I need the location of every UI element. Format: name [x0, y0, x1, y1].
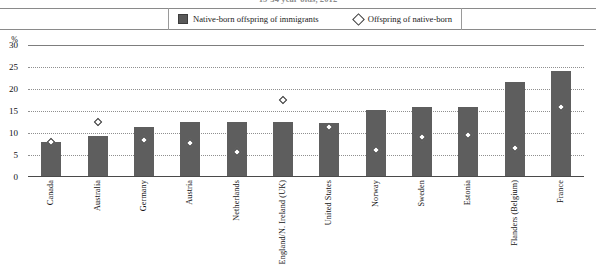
x-label-sweden: Sweden	[418, 180, 426, 207]
y-tick-label-5: 5	[14, 151, 19, 160]
y-tick-label-15: 15	[9, 107, 18, 116]
legend-label-diamond: Offspring of native-born	[368, 15, 452, 24]
bar-group	[505, 45, 525, 177]
bar-group	[227, 45, 247, 177]
x-label-flanders-belgium: Flanders (Belgium)	[511, 180, 519, 246]
bar-germany	[134, 127, 154, 177]
legend-label-bar: Native-born offspring of immigrants	[193, 15, 319, 24]
x-label-estonia: Estonia	[464, 180, 472, 205]
x-label-united-states: United States	[325, 180, 333, 225]
x-label-canada: Canada	[47, 180, 55, 205]
chart-title: 15-34 year-olds, 2012	[0, 0, 596, 4]
x-label-france: France	[557, 180, 565, 203]
y-tick-label-25: 25	[9, 63, 18, 72]
bar-canada	[41, 142, 61, 177]
legend-item-diamond: Offspring of native-born	[354, 15, 452, 24]
chart-figure: 15-34 year-olds, 2012 Native-born offspr…	[0, 0, 596, 271]
bar-flanders-belgium	[505, 82, 525, 177]
bar-group	[273, 45, 293, 177]
bar-group	[88, 45, 108, 177]
legend-item-bar: Native-born offspring of immigrants	[178, 14, 319, 24]
bar-group	[41, 45, 61, 177]
y-tick-label-0: 0	[14, 173, 19, 182]
legend-square-icon	[178, 14, 188, 24]
bar-england-n-ireland-uk	[273, 122, 293, 177]
bar-group	[180, 45, 200, 177]
bar-france	[551, 71, 571, 177]
y-axis: % 051015202530	[0, 30, 28, 182]
bar-group	[458, 45, 478, 177]
y-tick-label-10: 10	[9, 129, 18, 138]
legend-diamond-icon	[352, 13, 365, 26]
bar-sweden	[412, 107, 432, 177]
bar-group	[319, 45, 339, 177]
bar-norway	[366, 110, 386, 177]
chart-legend: Native-born offspring of immigrants Offs…	[168, 8, 462, 30]
x-label-england-n-ireland-uk: England/N. Ireland (UK)	[279, 180, 287, 264]
bar-group	[412, 45, 432, 177]
x-axis-labels: CanadaAustraliaGermanyAustriaNetherlands…	[28, 180, 584, 268]
plot-area	[28, 45, 584, 177]
x-label-germany: Germany	[140, 180, 148, 211]
y-tick-label-30: 30	[9, 41, 18, 50]
x-label-norway: Norway	[372, 180, 380, 207]
bars-layer	[28, 45, 584, 177]
bar-group	[366, 45, 386, 177]
x-axis-line	[28, 176, 584, 177]
bar-estonia	[458, 107, 478, 177]
x-label-netherlands: Netherlands	[233, 180, 241, 221]
y-tick-label-20: 20	[9, 85, 18, 94]
x-label-australia: Australia	[94, 180, 102, 211]
bar-australia	[88, 136, 108, 177]
bar-group	[134, 45, 154, 177]
x-label-austria: Austria	[186, 180, 194, 205]
bar-austria	[180, 122, 200, 177]
